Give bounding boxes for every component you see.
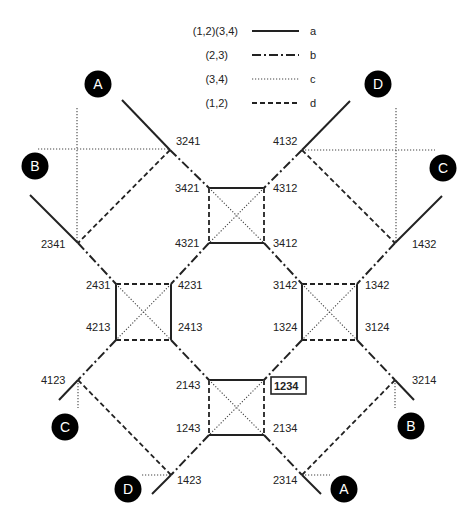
square-top — [209, 188, 264, 243]
endpoint-letter: D — [373, 76, 383, 92]
endpoint-d-bottom: D — [115, 476, 142, 503]
square-bottom — [209, 380, 264, 435]
identity-node-label: 1234 — [274, 380, 299, 392]
endpoint-letter: C — [438, 160, 448, 176]
legend-label: (2,3) — [205, 49, 228, 61]
node-label: 4231 — [178, 279, 202, 291]
legend-label: (1,2) — [205, 97, 228, 109]
edge-b — [171, 243, 209, 284]
node-label: 4132 — [273, 135, 297, 147]
edge-b — [264, 243, 302, 284]
node-label: 2413 — [178, 321, 202, 333]
legend: (1,2)(3,4) a (2,3) b (3,4) c (1,2) d — [193, 25, 317, 109]
endpoint-a-bottom: A — [331, 476, 358, 503]
endpoint-letter: A — [339, 481, 349, 497]
endpoint-a-top: A — [85, 71, 112, 98]
endpoint-b-left: B — [22, 153, 49, 180]
edge-a — [395, 196, 442, 243]
edge-b — [264, 435, 302, 475]
endpoint-c-bottom: C — [52, 414, 79, 441]
node-label: 2431 — [86, 279, 110, 291]
node-label: 2143 — [176, 379, 200, 391]
node-label: 4321 — [175, 237, 199, 249]
legend-label: (1,2)(3,4) — [193, 25, 238, 37]
node-label: 3412 — [273, 237, 297, 249]
node-label: 1324 — [273, 321, 297, 333]
edge-d — [302, 150, 395, 243]
node-label: 1423 — [177, 474, 201, 486]
endpoint-letter: B — [406, 418, 415, 434]
legend-letter: b — [310, 49, 316, 61]
node-label: 4213 — [86, 321, 110, 333]
node-label: 3214 — [412, 374, 436, 386]
edge-a — [152, 475, 171, 494]
edge-b — [171, 435, 209, 475]
node-label: 4312 — [273, 182, 297, 194]
endpoint-c-right: C — [430, 155, 457, 182]
legend-row-b: (2,3) b — [205, 49, 316, 61]
node-label: 2134 — [273, 422, 297, 434]
edge-d — [78, 150, 170, 243]
square-left — [116, 284, 171, 340]
endpoint-letter: C — [60, 419, 70, 435]
legend-letter: a — [310, 25, 317, 37]
node-label: 1243 — [176, 422, 200, 434]
legend-row-c: (3,4) c — [205, 73, 316, 85]
endpoint-b-bottom: B — [398, 413, 425, 440]
square-right — [302, 284, 357, 340]
node-label: 3241 — [176, 135, 200, 147]
node-label: 3142 — [273, 279, 297, 291]
edge-b — [264, 340, 302, 380]
edge-a — [30, 195, 78, 243]
node-label: 1342 — [365, 279, 389, 291]
legend-label: (3,4) — [205, 73, 228, 85]
node-label: 2341 — [41, 238, 65, 250]
legend-letter: d — [310, 97, 316, 109]
endpoint-letter: A — [93, 76, 103, 92]
edge-b — [78, 340, 116, 380]
legend-row-a: (1,2)(3,4) a — [193, 25, 317, 37]
node-label: 1432 — [412, 238, 436, 250]
legend-letter: c — [310, 73, 316, 85]
node-label: 3124 — [365, 321, 389, 333]
edge-b — [78, 243, 116, 284]
node-label: 3421 — [175, 182, 199, 194]
edge-d — [302, 380, 395, 475]
endpoint-letter: D — [123, 481, 133, 497]
edge-a — [302, 475, 321, 494]
edge-d — [78, 380, 171, 475]
node-label: 2314 — [273, 474, 297, 486]
edge-a — [122, 100, 170, 150]
edge-b — [357, 340, 395, 380]
edge-b — [171, 340, 209, 380]
node-label: 4123 — [41, 374, 65, 386]
edge-b — [357, 243, 395, 284]
legend-row-d: (1,2) d — [205, 97, 316, 109]
endpoint-d-top: D — [365, 71, 392, 98]
cayley-graph-diagram: (1,2)(3,4) a (2,3) b (3,4) c (1,2) d — [0, 0, 475, 530]
endpoint-letter: B — [30, 158, 39, 174]
